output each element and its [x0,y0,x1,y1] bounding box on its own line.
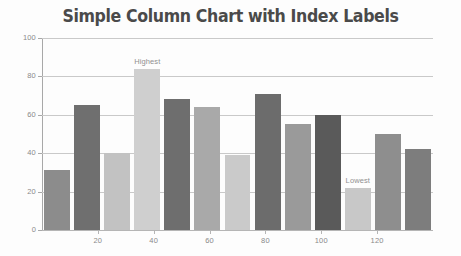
x-tick-label-120: 120 [365,236,389,245]
x-tick-mark-20 [98,230,99,234]
gridline-100 [42,38,433,39]
y-tick-label-40: 40 [6,148,36,157]
bar[interactable] [44,170,70,230]
bar[interactable] [255,94,281,230]
bar[interactable] [194,107,220,230]
x-tick-mark-120 [377,230,378,234]
plot-area [42,38,433,230]
chart-title: Simple Column Chart with Index Labels [16,6,445,26]
bar[interactable] [315,115,341,230]
y-tick-label-100: 100 [6,33,36,42]
bar-index-label-highest: Highest [129,57,165,66]
y-tick-label-20: 20 [6,187,36,196]
y-tick-label-0: 0 [6,225,36,234]
gridline-60 [42,115,433,116]
bar[interactable] [225,155,251,230]
x-axis-line [42,230,433,231]
bar-index-label-lowest: Lowest [340,176,376,185]
bar[interactable] [345,188,371,230]
x-tick-label-60: 60 [198,236,222,245]
bar[interactable] [104,153,130,230]
y-tick-label-80: 80 [6,71,36,80]
y-tick-mark-0 [38,230,42,231]
bar[interactable] [375,134,401,230]
x-tick-mark-40 [154,230,155,234]
bar[interactable] [74,105,100,230]
bar[interactable] [405,149,431,230]
bar[interactable] [164,99,190,230]
column-chart: Simple Column Chart with Index Labels 02… [0,0,461,256]
y-tick-label-60: 60 [6,110,36,119]
x-tick-label-40: 40 [142,236,166,245]
x-tick-label-80: 80 [253,236,277,245]
x-tick-mark-60 [210,230,211,234]
bar[interactable] [134,69,160,230]
gridline-80 [42,76,433,77]
x-tick-label-100: 100 [309,236,333,245]
x-tick-mark-100 [321,230,322,234]
bar[interactable] [285,124,311,230]
x-tick-label-20: 20 [86,236,110,245]
x-tick-mark-80 [265,230,266,234]
